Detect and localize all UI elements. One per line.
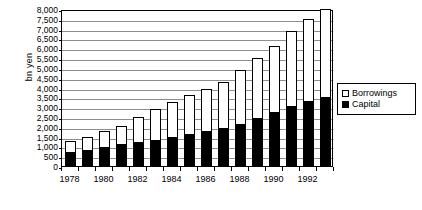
- y-tick-label: 1,000: [37, 143, 58, 152]
- y-tick-label: 5,000: [37, 65, 58, 74]
- plot-area: [61, 10, 333, 167]
- bar-group: [133, 117, 145, 166]
- x-tick-label: 1986: [195, 174, 215, 185]
- bars-layer: [62, 11, 332, 166]
- bar-segment-borrowings: [201, 89, 213, 131]
- bar-segment-capital: [269, 113, 281, 166]
- bar-segment-capital: [65, 153, 77, 166]
- y-tick-label: 7,000: [37, 25, 58, 34]
- bar-segment-borrowings: [184, 95, 196, 134]
- y-tick-label: 1,500: [37, 133, 58, 142]
- bar-segment-capital: [235, 125, 247, 166]
- bar-segment-capital: [99, 148, 111, 166]
- bar-segment-capital: [133, 143, 145, 166]
- x-tick-mark: [282, 167, 283, 171]
- bar-segment-borrowings: [116, 126, 128, 146]
- x-tick-mark: [299, 167, 300, 171]
- y-tick-label: 6,000: [37, 45, 58, 54]
- bar-group: [82, 137, 94, 166]
- legend-swatch-icon: [342, 90, 349, 97]
- bar-group: [252, 58, 264, 166]
- y-tick-label: 8,000: [37, 6, 58, 15]
- y-tick-label: 4,500: [37, 74, 58, 83]
- x-tick-mark: [231, 167, 232, 171]
- legend-label: Borrowings: [352, 88, 397, 98]
- x-tick-mark: [129, 167, 130, 171]
- x-tick-mark: [180, 167, 181, 171]
- x-tick-mark: [146, 167, 147, 171]
- bar-segment-borrowings: [218, 82, 230, 129]
- bar-segment-borrowings: [65, 141, 77, 153]
- bar-segment-capital: [303, 102, 315, 166]
- bar-segment-borrowings: [269, 46, 281, 113]
- x-tick-mark: [214, 167, 215, 171]
- bar-segment-capital: [286, 107, 298, 166]
- bar-group: [235, 70, 247, 166]
- legend-swatch-icon: [342, 101, 349, 108]
- y-tick-label: 6,500: [37, 35, 58, 44]
- bar-group: [320, 9, 332, 166]
- x-axis-tick-marks: [61, 167, 333, 172]
- y-axis-tick-labels: 05001,0001,5002,0002,5003,0003,5004,0004…: [26, 10, 58, 167]
- bar-group: [218, 82, 230, 166]
- stacked-bar-chart: bn yen 05001,0001,5002,0002,5003,0003,50…: [0, 0, 422, 210]
- y-tick-label: 500: [44, 153, 58, 162]
- bar-segment-borrowings: [99, 131, 111, 149]
- bar-segment-borrowings: [133, 117, 145, 143]
- bar-segment-capital: [167, 138, 179, 166]
- bar-group: [184, 95, 196, 166]
- x-tick-mark: [95, 167, 96, 171]
- bar-segment-capital: [116, 145, 128, 166]
- bar-group: [150, 109, 162, 166]
- x-tick-mark: [316, 167, 317, 171]
- bar-segment-borrowings: [303, 19, 315, 102]
- x-tick-mark: [333, 167, 334, 171]
- bar-group: [303, 19, 315, 166]
- y-tick-label: 3,500: [37, 94, 58, 103]
- y-tick-label: 0: [53, 163, 58, 172]
- bar-group: [116, 126, 128, 166]
- x-tick-mark: [163, 167, 164, 171]
- y-tick-label: 7,500: [37, 16, 58, 25]
- x-tick-label: 1980: [93, 174, 113, 185]
- bar-group: [201, 89, 213, 166]
- x-tick-label: 1990: [263, 174, 283, 185]
- bar-segment-capital: [252, 119, 264, 166]
- x-tick-label: 1978: [59, 174, 79, 185]
- legend-label: Capital: [352, 99, 380, 109]
- x-tick-mark: [112, 167, 113, 171]
- bar-group: [65, 141, 77, 166]
- x-tick-mark: [197, 167, 198, 171]
- x-tick-mark: [265, 167, 266, 171]
- x-tick-label: 1988: [229, 174, 249, 185]
- x-tick-mark: [248, 167, 249, 171]
- bar-segment-borrowings: [82, 137, 94, 152]
- chart-legend: BorrowingsCapital: [337, 83, 416, 115]
- y-tick-label: 5,500: [37, 55, 58, 64]
- y-tick-label: 3,000: [37, 104, 58, 113]
- y-tick-label: 2,500: [37, 114, 58, 123]
- bar-segment-capital: [82, 151, 94, 166]
- bar-segment-capital: [218, 129, 230, 166]
- bar-group: [99, 131, 111, 166]
- legend-item: Borrowings: [342, 88, 411, 98]
- bar-segment-borrowings: [252, 58, 264, 119]
- bar-segment-borrowings: [286, 31, 298, 108]
- x-tick-mark: [61, 167, 62, 171]
- bar-segment-borrowings: [235, 70, 247, 125]
- x-tick-label: 1992: [297, 174, 317, 185]
- bar-group: [286, 31, 298, 166]
- bar-segment-borrowings: [167, 102, 179, 137]
- bar-segment-capital: [150, 141, 162, 167]
- bar-segment-capital: [184, 135, 196, 166]
- legend-item: Capital: [342, 99, 411, 109]
- bar-segment-borrowings: [320, 9, 332, 98]
- bar-group: [167, 102, 179, 166]
- bar-segment-capital: [320, 98, 332, 166]
- bar-segment-capital: [201, 132, 213, 166]
- bar-group: [269, 46, 281, 166]
- bar-segment-borrowings: [150, 109, 162, 140]
- x-tick-label: 1982: [127, 174, 147, 185]
- y-tick-label: 2,000: [37, 124, 58, 133]
- y-tick-label: 4,000: [37, 84, 58, 93]
